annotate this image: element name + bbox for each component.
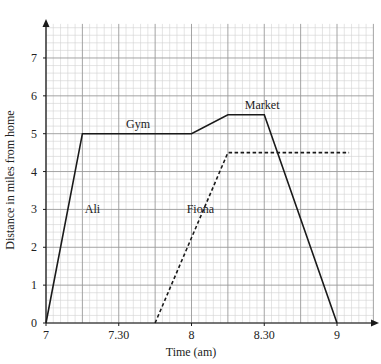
x-tick-label: 7 (43, 328, 49, 342)
x-tick-label: 8.30 (254, 328, 275, 342)
y-tick-label: 6 (31, 89, 37, 103)
y-tick-label: 3 (31, 202, 37, 216)
y-tick-label: 2 (31, 240, 37, 254)
chart-canvas: 77.3088.309 01234567 AliGymMarketFiona T… (0, 0, 381, 364)
y-tick-label: 5 (31, 127, 37, 141)
label-fiona: Fiona (187, 202, 215, 216)
y-tick-label: 4 (31, 165, 37, 179)
annotations: AliGymMarketFiona (85, 98, 280, 216)
x-axis-arrow-icon (371, 320, 379, 327)
label-gym: Gym (126, 117, 151, 131)
y-tick-label: 7 (31, 51, 37, 65)
y-axis-label: Distance in miles from home (3, 110, 17, 249)
y-tick-labels: 01234567 (31, 51, 46, 330)
y-tick-label: 1 (31, 278, 37, 292)
label-market: Market (245, 98, 280, 112)
label-ali: Ali (85, 202, 101, 216)
x-tick-label: 9 (334, 328, 340, 342)
series-lines (46, 115, 349, 323)
grid-major (46, 24, 373, 323)
x-tick-label: 8 (189, 328, 195, 342)
grid-minor (46, 24, 373, 323)
axes (43, 19, 380, 327)
x-axis-label: Time (am) (166, 345, 217, 359)
y-tick-label: 0 (31, 316, 37, 330)
distance-time-graph: 77.3088.309 01234567 AliGymMarketFiona T… (0, 0, 381, 364)
x-tick-labels: 77.3088.309 (43, 323, 340, 342)
y-axis-arrow-icon (43, 19, 50, 27)
x-tick-label: 7.30 (108, 328, 129, 342)
